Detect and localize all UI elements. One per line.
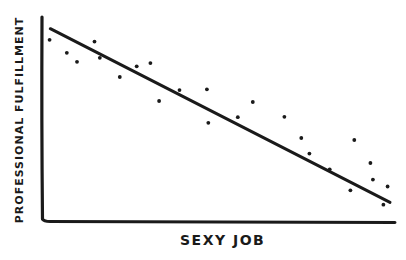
data-point — [352, 138, 356, 142]
data-point — [118, 75, 122, 79]
data-point — [135, 64, 139, 68]
data-point — [371, 178, 375, 182]
data-point — [93, 40, 97, 44]
data-point — [206, 121, 210, 125]
axes — [42, 17, 395, 223]
y-axis-label: PROFESSIONAL FULFILLMENT — [13, 17, 26, 224]
data-point — [98, 56, 102, 60]
trend-line — [50, 29, 390, 203]
data-point — [65, 51, 69, 55]
data-point — [349, 188, 353, 192]
data-points — [48, 38, 390, 207]
data-point — [178, 88, 182, 92]
data-point — [283, 115, 287, 119]
data-point — [236, 115, 240, 119]
data-point — [328, 167, 332, 171]
data-point — [299, 136, 303, 140]
data-point — [157, 99, 161, 103]
scatter-chart — [0, 0, 406, 260]
data-point — [308, 152, 312, 156]
data-point — [382, 203, 386, 207]
x-axis-label: SEXY JOB — [180, 232, 265, 248]
data-point — [251, 100, 255, 104]
trend-line-segment — [50, 29, 390, 203]
data-point — [205, 87, 209, 91]
data-point — [75, 60, 79, 64]
data-point — [149, 61, 153, 65]
y-axis-line — [42, 17, 43, 219]
data-point — [48, 38, 52, 42]
data-point — [369, 161, 373, 165]
data-point — [386, 185, 390, 189]
x-axis-line — [43, 219, 396, 223]
